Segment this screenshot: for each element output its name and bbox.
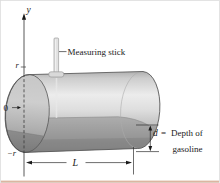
stick-flange [49, 72, 64, 77]
measuring-stick [54, 38, 59, 73]
bottom-rule [1, 181, 219, 183]
y-axis-arrowhead-icon [22, 13, 26, 20]
y-axis-label: y [26, 5, 32, 15]
depth-var-label: d [153, 128, 158, 138]
depth-text-line1: Depth of [171, 128, 203, 138]
L-arrowhead-left-icon [26, 161, 32, 165]
measuring-stick-label: Measuring stick [68, 47, 126, 57]
figure-canvas: y r 0 −r Measuring stick L d = Depth of … [0, 0, 220, 183]
radius-top-label: r [16, 60, 20, 70]
radius-bottom-label: −r [7, 148, 17, 158]
depth-equals-sign: = [161, 128, 166, 138]
origin-label: 0 [4, 103, 9, 113]
tank-diagram: y r 0 −r Measuring stick L d = Depth of … [0, 0, 220, 183]
length-label: L [72, 157, 79, 168]
L-arrowhead-right-icon [126, 161, 132, 165]
depth-text-line2: gasoline [173, 144, 203, 154]
d-arrowhead-bottom-icon [148, 146, 152, 151]
